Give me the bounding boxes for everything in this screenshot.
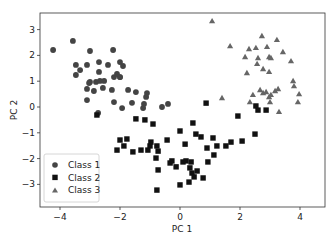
y-axis-label: PC 2 xyxy=(9,100,19,120)
data-point-square xyxy=(252,131,257,136)
data-point-circle xyxy=(77,67,83,73)
data-point-circle xyxy=(165,101,171,107)
legend-label-class-1: Class 1 xyxy=(68,160,100,170)
data-point-square xyxy=(177,128,182,133)
data-point-circle xyxy=(91,88,97,94)
data-point-square xyxy=(117,137,122,142)
data-point-square xyxy=(187,165,192,170)
x-tick-label: 0 xyxy=(177,212,183,222)
data-point-square xyxy=(169,158,174,163)
data-point-square xyxy=(173,164,178,169)
data-point-square xyxy=(121,143,126,148)
data-point-square xyxy=(183,158,188,163)
data-point-square xyxy=(148,139,153,144)
x-axis-label: PC 1 xyxy=(172,224,192,234)
y-tick-label: −1 xyxy=(22,128,35,138)
data-point-square xyxy=(154,143,159,148)
legend-label-class-3: Class 3 xyxy=(68,185,100,195)
y-tick-label: 0 xyxy=(29,102,35,112)
data-point-square xyxy=(210,135,215,140)
data-point-square xyxy=(193,131,198,136)
data-point-square xyxy=(191,174,196,179)
data-point-circle xyxy=(50,47,56,53)
data-point-square xyxy=(155,167,160,172)
x-tick-label: 4 xyxy=(297,212,303,222)
data-point-square xyxy=(228,139,233,144)
data-point-circle xyxy=(110,47,116,53)
y-tick-label: −3 xyxy=(22,179,35,189)
data-point-square xyxy=(214,143,219,148)
data-point-circle xyxy=(84,97,90,103)
data-point-square xyxy=(186,179,191,184)
data-point-square xyxy=(94,112,99,117)
data-point-square xyxy=(182,141,187,146)
square-marker-icon xyxy=(52,175,57,180)
data-point-square xyxy=(204,145,209,150)
x-tick-label: −2 xyxy=(113,212,126,222)
data-point-circle xyxy=(159,104,165,110)
legend: Class 1 Class 2 Class 3 xyxy=(44,154,100,202)
data-point-circle xyxy=(84,86,90,92)
data-point-square xyxy=(177,182,182,187)
data-point-circle xyxy=(120,63,126,69)
data-point-square xyxy=(211,152,216,157)
data-point-square xyxy=(235,113,240,118)
data-point-square xyxy=(198,134,203,139)
legend-label-class-2: Class 2 xyxy=(68,173,100,183)
x-tick-label: 2 xyxy=(237,212,243,222)
data-point-circle xyxy=(87,48,93,54)
data-point-square xyxy=(124,136,129,141)
y-tick-label: 2 xyxy=(29,50,35,60)
data-point-square xyxy=(130,149,135,154)
data-point-square xyxy=(154,187,159,192)
data-point-square xyxy=(223,143,228,148)
y-tick-label: −2 xyxy=(22,154,35,164)
data-point-square xyxy=(164,137,169,142)
data-point-circle xyxy=(101,78,107,84)
data-point-square xyxy=(142,117,147,122)
y-axis-ticks: 3 2 1 0 −1 −2 −3 xyxy=(22,25,40,190)
data-point-circle xyxy=(100,85,106,91)
data-point-circle xyxy=(111,99,117,105)
data-point-circle xyxy=(84,62,90,68)
data-point-circle xyxy=(125,87,131,93)
data-point-square xyxy=(200,175,205,180)
data-point-circle xyxy=(140,105,146,111)
data-point-circle xyxy=(73,62,79,68)
data-point-square xyxy=(239,138,244,143)
data-point-square xyxy=(203,100,208,105)
data-point-square xyxy=(145,147,150,152)
data-point-circle xyxy=(119,105,125,111)
y-tick-label: 3 xyxy=(29,25,35,35)
data-point-circle xyxy=(133,89,139,95)
data-point-square xyxy=(188,159,193,164)
data-point-circle xyxy=(143,94,149,100)
data-point-circle xyxy=(96,69,102,75)
data-point-circle xyxy=(96,59,102,65)
x-tick-label: −4 xyxy=(53,212,67,222)
data-point-square xyxy=(194,168,199,173)
data-point-square xyxy=(138,147,143,152)
data-point-square xyxy=(205,159,210,164)
circle-marker-icon xyxy=(52,162,58,168)
data-point-square xyxy=(155,148,160,153)
data-point-circle xyxy=(129,100,135,106)
scatter-chart: −4 −2 0 2 4 3 2 1 0 −1 −2 −3 PC 1 PC 2 C… xyxy=(0,0,336,234)
data-point-square xyxy=(133,116,138,121)
data-point-circle xyxy=(109,87,115,93)
data-point-circle xyxy=(105,62,111,68)
y-tick-label: 1 xyxy=(29,76,35,86)
data-point-circle xyxy=(70,38,76,44)
data-point-square xyxy=(263,107,268,112)
data-point-square xyxy=(114,147,119,152)
data-point-circle xyxy=(86,80,92,86)
data-point-square xyxy=(190,120,195,125)
data-point-circle xyxy=(117,74,123,80)
data-point-square xyxy=(253,103,258,108)
data-point-square xyxy=(150,121,155,126)
data-point-square xyxy=(153,155,158,160)
data-point-circle xyxy=(73,72,79,78)
x-axis-ticks: −4 −2 0 2 4 xyxy=(53,207,303,222)
data-point-circle xyxy=(111,74,117,80)
